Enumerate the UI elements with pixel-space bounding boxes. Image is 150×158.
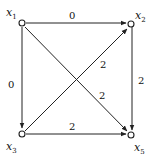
node-x1 [19, 20, 25, 26]
label-x2: x2 [135, 9, 146, 24]
weight-x2-x5: 2 [138, 75, 144, 86]
weight-x1-x5: 2 [99, 90, 105, 101]
label-x5: x5 [134, 141, 145, 156]
weight-x1-x2: 0 [69, 10, 75, 21]
node-x3 [19, 131, 25, 137]
label-x1: x1 [6, 6, 17, 21]
weight-x3-x2: 2 [100, 59, 106, 70]
weight-x1-x3: 0 [8, 79, 14, 90]
weight-x3-x5: 2 [69, 121, 75, 132]
node-x5 [128, 132, 134, 138]
label-x3: x3 [6, 140, 17, 155]
graph-diagram: x1 x2 x3 x5 0 0 2 2 2 2 [0, 0, 150, 158]
node-x2 [128, 21, 134, 27]
